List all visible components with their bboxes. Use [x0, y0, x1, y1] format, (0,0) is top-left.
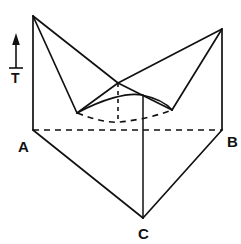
front-face-left-edge [33, 130, 143, 218]
hidden-edges [33, 83, 222, 130]
figure-container: A B C T [0, 0, 241, 244]
surface-back-arc [77, 110, 172, 122]
right-ridge-to-notch-edge [118, 29, 222, 83]
vertex-label-b: B [227, 134, 238, 149]
front-face-right-edge [143, 130, 222, 218]
saddle-surface-curves [77, 94, 172, 122]
vertex-label-a: A [18, 139, 29, 154]
temperature-axis-arrow [9, 33, 23, 68]
vertex-label-c: C [138, 226, 149, 241]
axis-label-t: T [11, 71, 20, 85]
axis-arrowhead-icon [12, 33, 20, 45]
left-ridge-to-notch-edge [33, 16, 118, 83]
saddle-surface-diagram [0, 0, 241, 244]
left-fold-to-valley-edge [33, 16, 77, 113]
prism-solid-edges [33, 16, 222, 218]
